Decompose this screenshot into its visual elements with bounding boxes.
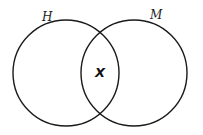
set-h-label: H xyxy=(41,10,53,24)
intersection-label: X xyxy=(94,65,106,80)
venn-diagram: H M X xyxy=(0,0,203,135)
set-m-label: M xyxy=(149,8,163,22)
